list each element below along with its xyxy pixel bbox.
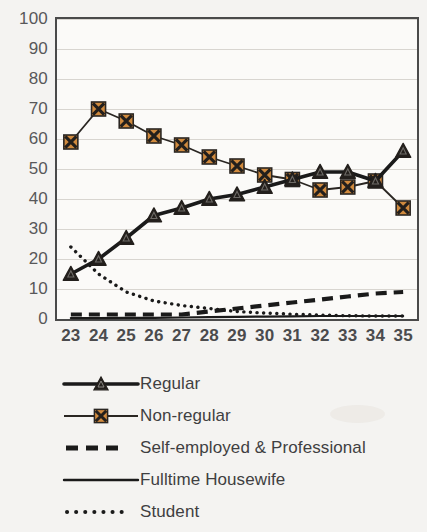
legend-item-fulltime-housewife[interactable]: Fulltime Housewife	[62, 464, 422, 496]
legend-item-self-employed-and-professional[interactable]: Self-employed & Professional	[62, 432, 422, 464]
legend-swatch-icon	[62, 502, 140, 522]
legend-key-regular	[62, 374, 140, 394]
x-axis-tick: 34	[366, 326, 385, 346]
x-axis-tick: 32	[310, 326, 329, 346]
legend-key-self-employed-and-professional	[62, 438, 140, 458]
x-axis-tick: 33	[338, 326, 357, 346]
legend-swatch-icon	[62, 470, 140, 490]
x-axis-tick: 29	[227, 326, 246, 346]
legend-item-non-regular[interactable]: Non-regular	[62, 400, 422, 432]
legend-label-non-regular: Non-regular	[140, 406, 231, 426]
legend-swatch-icon	[62, 438, 140, 458]
series-line-fulltime-housewife	[71, 316, 403, 318]
legend-label-student: Student	[140, 502, 199, 522]
x-axis-tick: 30	[255, 326, 274, 346]
x-axis-tick: 28	[200, 326, 219, 346]
x-axis-tick: 24	[89, 326, 108, 346]
series-line-student	[71, 247, 403, 316]
chart-figure: 0102030405060708090100 23242526272829303…	[0, 0, 427, 532]
legend-swatch-icon	[62, 406, 140, 426]
legend-label-regular: Regular	[140, 374, 200, 394]
legend: RegularNon-regularSelf-employed & Profes…	[62, 368, 422, 528]
legend-key-student	[62, 502, 140, 522]
x-axis-tick: 27	[172, 326, 191, 346]
legend-item-regular[interactable]: Regular	[62, 368, 422, 400]
legend-key-non-regular	[62, 406, 140, 426]
x-axis-tick: 35	[393, 326, 412, 346]
legend-label-self-employed-and-professional: Self-employed & Professional	[140, 438, 366, 458]
x-axis-tick-labels: 23242526272829303132333435	[55, 326, 419, 352]
x-axis-tick: 31	[283, 326, 302, 346]
x-axis-tick: 25	[117, 326, 136, 346]
x-axis-tick: 26	[144, 326, 163, 346]
legend-key-fulltime-housewife	[62, 470, 140, 490]
legend-label-fulltime-housewife: Fulltime Housewife	[140, 470, 285, 490]
legend-item-student[interactable]: Student	[62, 496, 422, 528]
legend-swatch-icon	[62, 374, 140, 394]
x-axis-tick: 23	[61, 326, 80, 346]
